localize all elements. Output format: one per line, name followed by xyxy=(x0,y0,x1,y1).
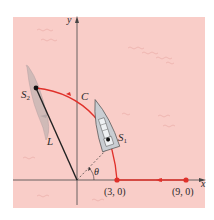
point-mid xyxy=(158,178,161,181)
point-3-0-label: (3, 0) xyxy=(104,186,126,198)
point-9-0 xyxy=(183,177,188,182)
curve-c-label: C xyxy=(81,90,89,102)
point-9-0-label: (9, 0) xyxy=(172,186,194,198)
s2-point xyxy=(34,86,39,91)
pursuit-curve-diagram: y x S2 S1 C L θ (3, 0) (9, 0) xyxy=(0,0,214,220)
line-l-label: L xyxy=(46,135,53,147)
y-axis-label: y xyxy=(66,14,72,25)
x-axis-label: x xyxy=(200,178,206,189)
theta-label: θ xyxy=(94,166,99,177)
point-3-0 xyxy=(114,177,119,182)
